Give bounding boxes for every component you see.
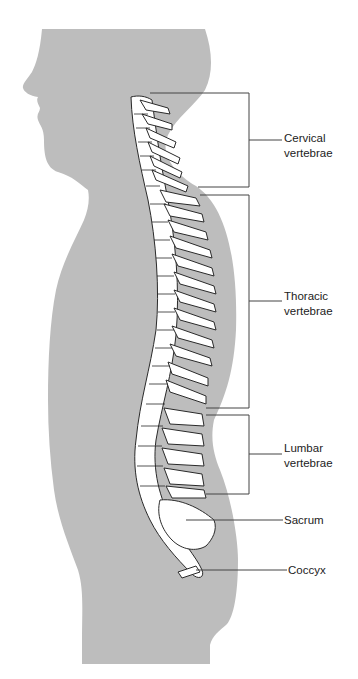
label-line: Coccyx xyxy=(288,563,326,578)
label-lumbar-vertebrae: Lumbar vertebrae xyxy=(284,441,333,471)
label-line: Cervical xyxy=(284,131,333,146)
label-thoracic-vertebrae: Thoracic vertebrae xyxy=(284,289,333,319)
label-line: vertebrae xyxy=(284,304,333,319)
label-line: Lumbar xyxy=(284,441,333,456)
label-sacrum: Sacrum xyxy=(284,513,324,528)
label-line: Sacrum xyxy=(284,513,324,528)
label-line: vertebrae xyxy=(284,146,333,161)
label-cervical-vertebrae: Cervical vertebrae xyxy=(284,131,333,161)
body-silhouette xyxy=(23,29,238,664)
label-line: vertebrae xyxy=(284,456,333,471)
label-coccyx: Coccyx xyxy=(288,563,326,578)
spine-diagram: Cervical vertebrae Thoracic vertebrae Lu… xyxy=(0,0,358,679)
label-line: Thoracic xyxy=(284,289,333,304)
